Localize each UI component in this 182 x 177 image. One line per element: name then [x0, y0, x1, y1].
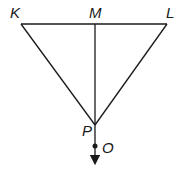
label-m: M	[89, 4, 102, 21]
label-o: O	[102, 139, 114, 156]
geometry-diagram: K M L P O	[0, 0, 182, 177]
label-k: K	[10, 4, 21, 21]
segment-lp	[95, 24, 167, 125]
label-p: P	[82, 122, 92, 139]
segment-kp	[21, 24, 95, 125]
label-l: L	[166, 4, 174, 21]
point-o-dot	[93, 144, 98, 149]
